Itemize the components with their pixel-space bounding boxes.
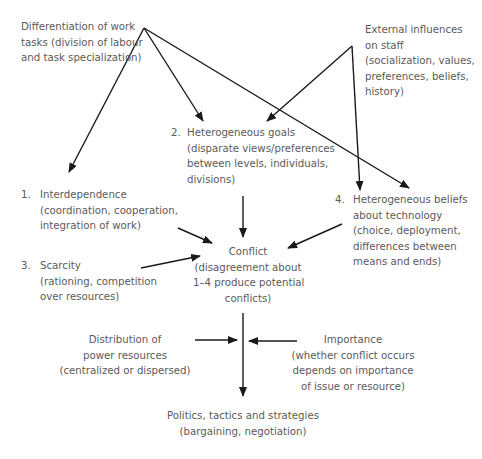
node-line: (disagreement about: [193, 260, 303, 276]
arrow-interdependence-to-conflict: [178, 228, 212, 243]
node-distribution-of-power: Distribution of power resources (central…: [55, 332, 195, 379]
node-line: (centralized or dispersed): [55, 363, 195, 379]
node-heterogeneous-beliefs: Heterogeneous beliefs about technology (…: [353, 192, 468, 270]
node-line: on staff: [365, 38, 475, 54]
node-line: divisions): [187, 172, 335, 188]
node-politics-tactics-strategies: Politics, tactics and strategies (bargai…: [158, 408, 328, 439]
node-line: over resources): [40, 289, 157, 305]
node-line: (rationing, competition: [40, 274, 157, 290]
node-line: Conflict: [193, 244, 303, 260]
node-importance: Importance (whether conflict occurs depe…: [283, 332, 423, 394]
node-line: (bargaining, negotiation): [158, 424, 328, 440]
arrow-external-to-goals: [267, 46, 352, 121]
node-line: (choice, deployment,: [353, 223, 468, 239]
node-interdependence: Interdependence (coordination, cooperati…: [40, 187, 178, 234]
node-line: preferences, beliefs,: [365, 69, 475, 85]
node-line: Importance: [283, 332, 423, 348]
node-line: power resources: [55, 348, 195, 364]
node-beliefs-number: 4.: [335, 192, 345, 208]
arrow-external-to-beliefs: [352, 46, 360, 190]
node-line: depends on importance: [283, 363, 423, 379]
node-heterogeneous-goals: Heterogeneous goals (disparate views/pre…: [187, 125, 335, 187]
node-line: conflicts): [193, 291, 303, 307]
node-differentiation: Differentiation of work tasks (division …: [21, 19, 143, 66]
node-scarcity: Scarcity (rationing, competition over re…: [40, 258, 157, 305]
node-line: (disparate views/preferences: [187, 141, 335, 157]
node-line: about technology: [353, 208, 468, 224]
node-line: Heterogeneous beliefs: [353, 192, 468, 208]
node-line: (whether conflict occurs: [283, 348, 423, 364]
node-scarcity-number: 3.: [21, 258, 31, 274]
node-line: tasks (division of labour: [21, 35, 143, 51]
node-goals-number: 2.: [171, 125, 181, 141]
node-line: between levels, individuals,: [187, 156, 335, 172]
node-conflict: Conflict (disagreement about 1–4 produce…: [193, 244, 303, 306]
node-line: Heterogeneous goals: [187, 125, 335, 141]
node-line: Interdependence: [40, 187, 178, 203]
node-line: history): [365, 84, 475, 100]
node-line: differences between: [353, 239, 468, 255]
node-line: 1–4 produce potential: [193, 275, 303, 291]
node-line: means and ends): [353, 254, 468, 270]
node-line: (coordination, cooperation,: [40, 203, 178, 219]
node-line: of issue or resource): [283, 379, 423, 395]
node-line: Scarcity: [40, 258, 157, 274]
node-interdependence-number: 1.: [21, 187, 31, 203]
node-line: and task specialization): [21, 50, 143, 66]
node-external-influences: External influences on staff (socializat…: [365, 22, 475, 100]
node-line: External influences: [365, 22, 475, 38]
node-line: Politics, tactics and strategies: [158, 408, 328, 424]
node-line: Distribution of: [55, 332, 195, 348]
node-line: Differentiation of work: [21, 19, 143, 35]
node-line: (socialization, values,: [365, 53, 475, 69]
node-line: integration of work): [40, 218, 178, 234]
arrow-differentiation-to-goals: [144, 28, 203, 121]
